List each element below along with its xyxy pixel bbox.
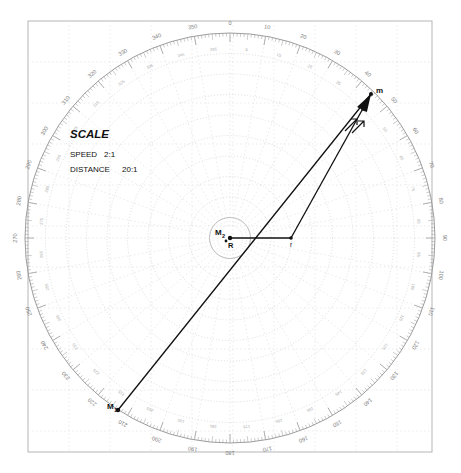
compass-minor-label-255: 255 bbox=[44, 282, 51, 291]
compass-label-270: 270 bbox=[12, 233, 18, 242]
compass-label-140: 140 bbox=[362, 397, 373, 408]
compass-label-80: 80 bbox=[438, 197, 445, 204]
scale-speed-value: 2:1 bbox=[104, 150, 116, 159]
vector-triangle bbox=[118, 94, 371, 410]
true-motion-vector bbox=[291, 94, 371, 238]
compass-label-320: 320 bbox=[87, 68, 98, 79]
compass-minor-label-325: 325 bbox=[117, 78, 126, 86]
compass-label-180: 180 bbox=[225, 450, 234, 456]
compass-label-160: 160 bbox=[298, 435, 309, 444]
compass-label-30: 30 bbox=[333, 48, 341, 56]
compass-minor-label-115: 115 bbox=[398, 314, 406, 323]
compass-label-150: 150 bbox=[332, 419, 343, 429]
compass-label-340: 340 bbox=[151, 32, 162, 41]
plotting-sheet-canvas: 0102030405060708090100110120130140150160… bbox=[0, 0, 461, 473]
compass-label-60: 60 bbox=[412, 127, 420, 135]
label-point-r: R bbox=[228, 241, 234, 250]
compass-minor-label-65: 65 bbox=[398, 155, 405, 162]
compass-label-100: 100 bbox=[437, 270, 445, 280]
label-apex-m: m bbox=[376, 86, 383, 95]
compass-label-220: 220 bbox=[87, 397, 98, 408]
compass-minor-label-345: 345 bbox=[177, 52, 186, 59]
compass-label-210: 210 bbox=[117, 419, 128, 429]
compass-minor-label-185: 185 bbox=[209, 424, 217, 430]
compass-minor-label-135: 135 bbox=[359, 368, 368, 377]
point-m-dot bbox=[369, 92, 373, 96]
scale-distance-value: 20:1 bbox=[122, 165, 138, 174]
compass-minor-label-35: 35 bbox=[335, 79, 342, 86]
radar-plot-svg: 0102030405060708090100110120130140150160… bbox=[0, 0, 461, 473]
scale-legend-title: SCALE bbox=[70, 128, 109, 140]
compass-minor-label-85: 85 bbox=[416, 219, 421, 225]
compass-label-280: 280 bbox=[15, 196, 23, 206]
point-r-lower-dot bbox=[289, 236, 293, 240]
compass-label-350: 350 bbox=[188, 23, 198, 31]
compass-minor-label-165: 165 bbox=[274, 418, 283, 425]
compass-minor-label-285: 285 bbox=[44, 184, 51, 193]
compass-minor-label-315: 315 bbox=[92, 99, 101, 108]
label-point-m1: M bbox=[107, 402, 114, 411]
compass-label-70: 70 bbox=[428, 161, 436, 169]
label-vertex-r: r bbox=[290, 241, 293, 248]
compass-label-0: 0 bbox=[228, 20, 231, 26]
compass-label-290: 290 bbox=[24, 159, 33, 170]
compass-minor-label-25: 25 bbox=[307, 63, 314, 70]
compass-label-250: 250 bbox=[24, 306, 33, 317]
compass-minor-label-265: 265 bbox=[38, 250, 44, 258]
point-r-dot bbox=[228, 236, 232, 240]
scale-distance-label: DISTANCE bbox=[70, 165, 110, 174]
compass-label-90: 90 bbox=[442, 235, 448, 241]
compass-minor-label-195: 195 bbox=[176, 417, 185, 424]
compass-label-230: 230 bbox=[60, 370, 71, 381]
compass-minor-label-175: 175 bbox=[242, 424, 250, 430]
compass-minor-label-125: 125 bbox=[381, 342, 389, 351]
compass-label-260: 260 bbox=[15, 270, 23, 280]
compass-minor-label-105: 105 bbox=[409, 283, 416, 292]
compass-label-300: 300 bbox=[39, 125, 49, 136]
compass-label-190: 190 bbox=[188, 445, 198, 453]
compass-minor-label-205: 205 bbox=[145, 406, 154, 414]
scale-speed-label: SPEED bbox=[70, 150, 97, 159]
relative-motion-line bbox=[118, 94, 371, 410]
compass-minor-label-95: 95 bbox=[416, 252, 421, 258]
compass-minor-label-245: 245 bbox=[54, 313, 62, 322]
compass-minor-label-75: 75 bbox=[410, 186, 416, 192]
compass-label-200: 200 bbox=[151, 435, 162, 444]
compass-label-20: 20 bbox=[299, 33, 307, 41]
label-point-m2: M bbox=[215, 228, 222, 237]
compass-minor-label-275: 275 bbox=[39, 217, 45, 225]
compass-minor-label-225: 225 bbox=[91, 367, 100, 376]
compass-minor-label-295: 295 bbox=[55, 153, 63, 162]
compass-label-330: 330 bbox=[117, 47, 128, 57]
point-m2-dot bbox=[225, 240, 228, 243]
compass-minor-label-15: 15 bbox=[276, 52, 282, 58]
compass-minor-label-55: 55 bbox=[382, 126, 389, 133]
label-point-m2-subscript: 2 bbox=[222, 233, 225, 239]
compass-minor-label-5: 5 bbox=[245, 47, 248, 52]
label-point-m1-subscript: 1 bbox=[114, 407, 117, 413]
compass-label-170: 170 bbox=[262, 445, 272, 453]
compass-minor-label-155: 155 bbox=[305, 406, 314, 414]
compass-minor-label-355: 355 bbox=[210, 46, 218, 52]
compass-label-10: 10 bbox=[264, 23, 271, 30]
compass-label-40: 40 bbox=[364, 69, 373, 78]
compass-minor-label-145: 145 bbox=[334, 389, 343, 397]
scale-legend: SCALE SPEED 2:1 DISTANCE 20:1 bbox=[70, 128, 138, 174]
compass-minor-label-335: 335 bbox=[146, 62, 155, 70]
compass-label-310: 310 bbox=[60, 95, 71, 106]
compass-label-130: 130 bbox=[389, 370, 400, 381]
compass-minor-label-235: 235 bbox=[70, 342, 78, 351]
